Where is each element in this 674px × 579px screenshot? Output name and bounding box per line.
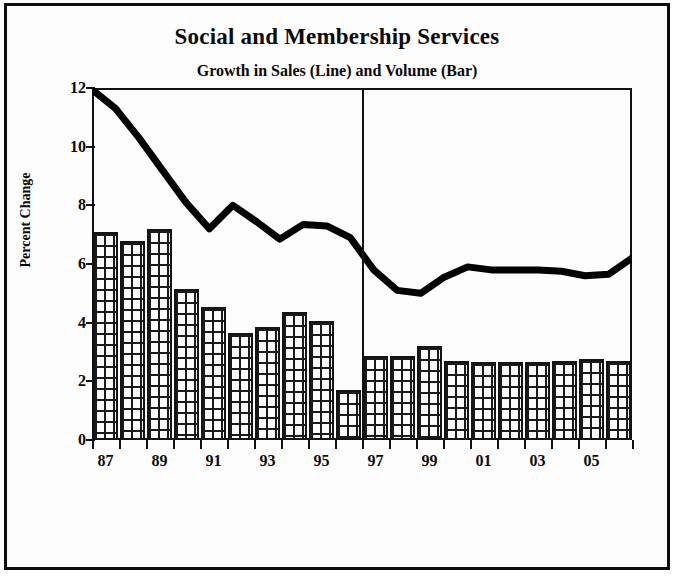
page-title: Social and Membership Services (0, 24, 674, 50)
x-axis-tick-mark (200, 440, 202, 449)
x-axis-tick-label: 89 (140, 452, 180, 470)
forecast-divider-line (362, 88, 364, 440)
x-axis-tick-mark (146, 440, 148, 449)
x-axis-tick-mark (497, 440, 499, 449)
x-axis-tick-mark (335, 440, 337, 449)
forecast-divider-layer (92, 88, 632, 440)
x-axis-tick-mark (443, 440, 445, 449)
y-axis-tick-label: 10 (52, 139, 86, 155)
y-axis-title: Percent Change (18, 150, 34, 290)
x-axis-tick-mark (362, 440, 364, 449)
x-axis-ticks (92, 440, 632, 450)
x-axis-tick-label: 87 (86, 452, 126, 470)
x-axis-tick-mark (632, 440, 634, 449)
y-axis-tick-label: 8 (52, 197, 86, 213)
x-axis-tick-label: 01 (464, 452, 504, 470)
x-axis-tick-label: 91 (194, 452, 234, 470)
chart-subtitle: Growth in Sales (Line) and Volume (Bar) (0, 62, 674, 80)
x-axis-tick-mark (227, 440, 229, 449)
x-axis-tick-mark (524, 440, 526, 449)
x-axis-tick-mark (254, 440, 256, 449)
x-axis-tick-mark (281, 440, 283, 449)
x-axis-tick-mark (551, 440, 553, 449)
x-axis-tick-mark (119, 440, 121, 449)
x-axis-tick-mark (92, 440, 94, 449)
plot-area (92, 88, 632, 440)
x-axis-tick-label: 99 (410, 452, 450, 470)
x-axis-tick-label: 93 (248, 452, 288, 470)
y-axis-tick-labels: 024681012 (40, 88, 86, 440)
x-axis-tick-label: 97 (356, 452, 396, 470)
x-axis-tick-label: 05 (572, 452, 612, 470)
y-axis-tick-label: 4 (52, 315, 86, 331)
y-axis-tick-label: 0 (52, 432, 86, 448)
x-axis-tick-mark (578, 440, 580, 449)
x-axis-tick-mark (308, 440, 310, 449)
x-axis-tick-mark (605, 440, 607, 449)
x-axis-tick-label: 03 (518, 452, 558, 470)
x-axis-tick-mark (173, 440, 175, 449)
x-axis-tick-label: 95 (302, 452, 342, 470)
y-axis-tick-label: 6 (52, 256, 86, 272)
y-axis-tick-label: 2 (52, 373, 86, 389)
chart-page: Social and Membership Services Growth in… (0, 0, 674, 579)
y-axis-tick-label: 12 (52, 80, 86, 96)
x-axis-tick-labels: 87899193959799010305 (92, 452, 632, 476)
x-axis-tick-mark (389, 440, 391, 449)
x-axis-tick-mark (470, 440, 472, 449)
x-axis-tick-mark (416, 440, 418, 449)
